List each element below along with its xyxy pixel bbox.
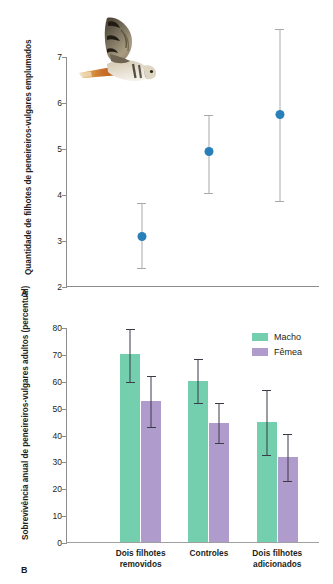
panel-b-y-axis-title: Sobrevivência anual de peneireiros-vulga… — [20, 325, 32, 540]
panel-b-tick-label: 40 — [53, 431, 62, 441]
error-cap-bottom — [215, 443, 224, 444]
panel-b-tick — [62, 489, 67, 490]
panel-b-tick-label: 20 — [53, 484, 62, 494]
figure-container: Quantidade de filhotes de peneireiros-vu… — [0, 0, 333, 584]
error-cap-top — [147, 376, 156, 377]
panel-a-y-axis-title-text: Quantidade de filhotes de peneireiros-vu… — [24, 39, 33, 275]
panel-a-tick — [62, 195, 67, 196]
error-cap-bottom — [194, 403, 203, 404]
panel-b-tick-label: 60 — [53, 377, 62, 387]
error-cap-top — [262, 390, 271, 391]
panel-b-tick — [62, 328, 67, 329]
error-cap-top — [275, 29, 284, 30]
error-cap-top — [126, 329, 135, 330]
legend-label: Fêmea — [274, 347, 302, 357]
panel-a-tick — [62, 241, 67, 242]
panel-a-tick — [62, 287, 67, 288]
legend-swatch-icon — [252, 348, 268, 356]
panel-b-tick — [62, 355, 67, 356]
kestrel-photo — [77, 14, 163, 96]
panel-b-tick — [62, 516, 67, 517]
panel-b-tick — [62, 543, 67, 544]
panel-b-error-bar — [266, 390, 267, 456]
panel-b-tick-label: 50 — [53, 404, 62, 414]
error-cap-bottom — [275, 201, 284, 202]
panel-b-error-bar — [287, 434, 288, 482]
panel-b-tick-label: 30 — [53, 457, 62, 467]
error-cap-top — [215, 403, 224, 404]
panel-b-error-bar — [219, 403, 220, 444]
panel-a-data-point — [275, 110, 284, 119]
panel-b-category-label: Controles — [190, 548, 229, 559]
panel-a-tick-label: 4 — [57, 190, 62, 200]
panel-a-tick-label: 2 — [57, 282, 62, 292]
panel-a-tick — [62, 103, 67, 104]
error-cap-top — [137, 203, 146, 204]
panel-b-plot-area: 01020304050607080 — [66, 328, 319, 543]
error-cap-top — [194, 359, 203, 360]
chart-legend: MachoFêmea — [252, 330, 302, 360]
panel-b-error-bar — [130, 329, 131, 384]
panel-a-tick — [62, 149, 67, 150]
panel-a-tick — [62, 57, 67, 58]
panel-b-category-label: Dois filhotes adicionados — [252, 548, 302, 570]
panel-a-tick-label: 5 — [57, 144, 62, 154]
error-cap-bottom — [204, 193, 213, 194]
legend-label: Macho — [274, 332, 301, 342]
panel-b-category-label: Dois filhotes removidos — [116, 548, 166, 570]
panel-b-tick-label: 80 — [53, 323, 62, 333]
panel-b-tick-label: 70 — [53, 350, 62, 360]
error-cap-top — [283, 434, 292, 435]
panel-a-x-axis-line — [66, 286, 319, 287]
panel-b-tick — [62, 436, 67, 437]
legend-swatch-icon — [252, 333, 268, 341]
panel-a-y-axis-title: Quantidade de filhotes de peneireiros-vu… — [23, 49, 35, 275]
panel-a-scatter-chart: Quantidade de filhotes de peneireiros-vu… — [0, 0, 333, 300]
panel-a-y-axis-line — [66, 57, 67, 287]
panel-b-error-bar — [151, 376, 152, 428]
panel-b-y-axis-title-text: Sobrevivência anual de peneireiros-vulga… — [21, 286, 30, 540]
panel-a-tick-label: 7 — [57, 52, 62, 62]
legend-item[interactable]: Macho — [252, 330, 302, 343]
panel-b-error-bar — [198, 359, 199, 404]
panel-a-tick-label: 6 — [57, 98, 62, 108]
panel-b-bar — [188, 381, 208, 542]
error-cap-bottom — [126, 382, 135, 383]
panel-b-tick — [62, 382, 67, 383]
panel-b-tick-label: 10 — [53, 511, 62, 521]
error-cap-bottom — [262, 455, 271, 456]
panel-a-data-point — [137, 232, 146, 241]
error-cap-bottom — [137, 268, 146, 269]
legend-item[interactable]: Fêmea — [252, 345, 302, 358]
panel-b-tick — [62, 409, 67, 410]
error-cap-top — [204, 115, 213, 116]
panel-b-tick — [62, 462, 67, 463]
panel-b-label: B — [21, 565, 28, 575]
error-cap-bottom — [147, 427, 156, 428]
panel-a-data-point — [204, 147, 213, 156]
panel-a-tick-label: 3 — [57, 236, 62, 246]
panel-b-tick-label: 0 — [57, 538, 62, 548]
error-cap-bottom — [283, 481, 292, 482]
